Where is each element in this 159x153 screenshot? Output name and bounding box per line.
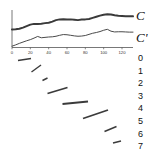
series-line-c <box>12 14 133 29</box>
series-label-c-prime: C' <box>136 31 147 44</box>
segment-number-list: 01234567 <box>138 52 159 153</box>
segment-dash-4 <box>63 102 89 105</box>
segment-number-0: 0 <box>138 52 159 65</box>
segment-number-6: 6 <box>138 128 159 141</box>
segment-dash-3 <box>48 88 68 94</box>
x-axis-tick-label: 60 <box>65 50 70 55</box>
x-axis-tick-label: 120 <box>119 50 126 55</box>
x-axis-tick-label: 40 <box>46 50 51 55</box>
series-lines <box>12 14 133 46</box>
segment-number-3: 3 <box>138 90 159 103</box>
segment-number-7: 7 <box>138 140 159 153</box>
segment-dashes <box>18 59 121 144</box>
segment-number-4: 4 <box>138 102 159 115</box>
x-axis-tick-label: 100 <box>100 50 107 55</box>
x-axis-tick-label: 0 <box>11 50 13 55</box>
segment-dash-0 <box>18 59 31 61</box>
series-label-c: C <box>136 9 145 22</box>
segment-dash-2 <box>43 78 48 81</box>
x-axis-tick-label: 20 <box>28 50 33 55</box>
segment-number-1: 1 <box>138 65 159 78</box>
series-line-c-prime <box>12 29 133 46</box>
segment-dash-5 <box>83 110 108 119</box>
x-axis-tick-label: 80 <box>83 50 88 55</box>
segment-dash-6 <box>105 127 117 132</box>
segment-number-2: 2 <box>138 77 159 90</box>
segment-dash-7 <box>113 141 121 143</box>
segment-dash-1 <box>32 65 42 72</box>
segment-number-5: 5 <box>138 115 159 128</box>
figure-root: 020406080100120 C C' 01234567 <box>0 0 159 153</box>
